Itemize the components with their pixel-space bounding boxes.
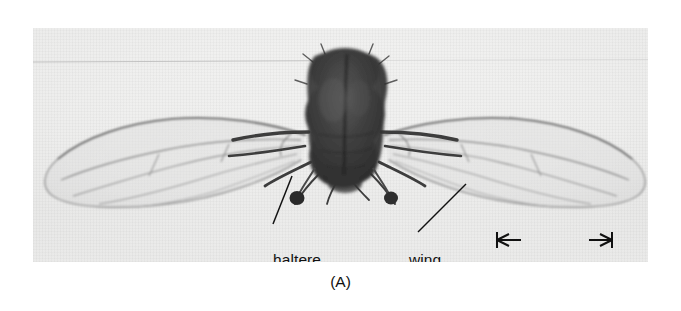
right-haltere-knob: [384, 192, 398, 205]
panel-label: (A): [0, 274, 681, 290]
scale-bar-graphic: [497, 232, 612, 248]
annotation-label-haltere: haltere: [273, 252, 321, 262]
wing-leader-line: [418, 184, 466, 232]
figure-panel-a: haltere wing 1 mm (A): [0, 0, 681, 311]
photo-scratch-artifact-right: [363, 60, 648, 61]
fly-specimen-illustration: [33, 28, 648, 262]
specimen-photograph: haltere wing 1 mm: [33, 28, 648, 262]
right-wing: [385, 118, 645, 207]
right-haltere: [373, 168, 398, 205]
haltere-leader-line: [273, 176, 292, 224]
left-haltere-knob: [290, 191, 305, 205]
scale-bar-label: 1 mm: [555, 259, 595, 262]
annotation-label-wing: wing: [409, 252, 441, 262]
right-haltere-stalk: [373, 168, 389, 194]
left-wing: [45, 118, 305, 207]
left-haltere: [290, 168, 316, 205]
